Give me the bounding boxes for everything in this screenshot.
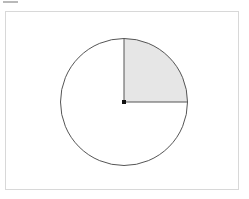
- center-point-marker: [122, 100, 126, 104]
- cropped-toolbar-sliver: [3, 1, 18, 3]
- circle-sector-figure: [6, 12, 240, 191]
- shaded-quarter-sector: [124, 39, 188, 103]
- diagram-panel: [5, 11, 239, 190]
